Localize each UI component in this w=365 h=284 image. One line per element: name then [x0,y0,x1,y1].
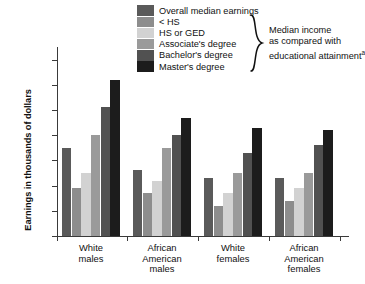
bar [323,130,332,236]
bar [72,188,81,236]
legend-swatch-icon [137,5,154,16]
x-axis-tick [57,236,58,241]
bar [275,178,284,236]
bar [285,201,294,236]
bar [223,193,232,236]
bar [152,181,161,236]
bar [204,178,213,236]
bar [91,135,100,236]
bar [133,170,142,236]
bar [233,173,242,236]
bars-layer [57,47,349,237]
x-axis-tick [269,236,270,241]
y-axis-title: Earnings in thousands of dollars [23,72,33,248]
x-axis-tick [127,236,128,241]
legend-swatch-icon [137,28,154,39]
x-axis-tick [198,236,199,241]
bar [162,148,171,236]
bar [294,188,303,236]
bar [101,107,110,236]
bar [181,118,190,236]
legend-item: < HS [137,16,259,27]
x-axis-category-label-line: females [261,264,347,275]
bar [81,173,90,236]
bar [172,135,181,236]
x-axis-category-label: AfricanAmericanfemales [261,243,347,275]
legend-item-label: < HS [159,17,180,27]
bar [314,145,323,236]
legend-note-line-2: as compared with [269,36,365,47]
x-axis-category-label-line: males [119,264,205,275]
bar [143,193,152,236]
legend-item-label: Overall median earnings [159,6,259,16]
bar [62,148,71,236]
legend-item-label: HS or GED [159,28,205,38]
x-axis-category-label-line: African [261,243,347,254]
bar [304,173,313,236]
legend-note-line-1: Median income [269,25,365,36]
bar [243,153,252,236]
legend-item: HS or GED [137,27,259,38]
bar [110,80,119,236]
legend-item: Overall median earnings [137,5,259,16]
x-axis-category-labels: WhitemalesAfricanAmericanmalesWhitefemal… [57,243,349,283]
bar [214,206,223,236]
legend-swatch-icon [137,17,154,28]
legend-note-superscript: a [361,49,365,56]
x-axis-tick [340,236,341,241]
bar [252,128,261,236]
plot-area: 0102030405060$70 [57,47,349,237]
